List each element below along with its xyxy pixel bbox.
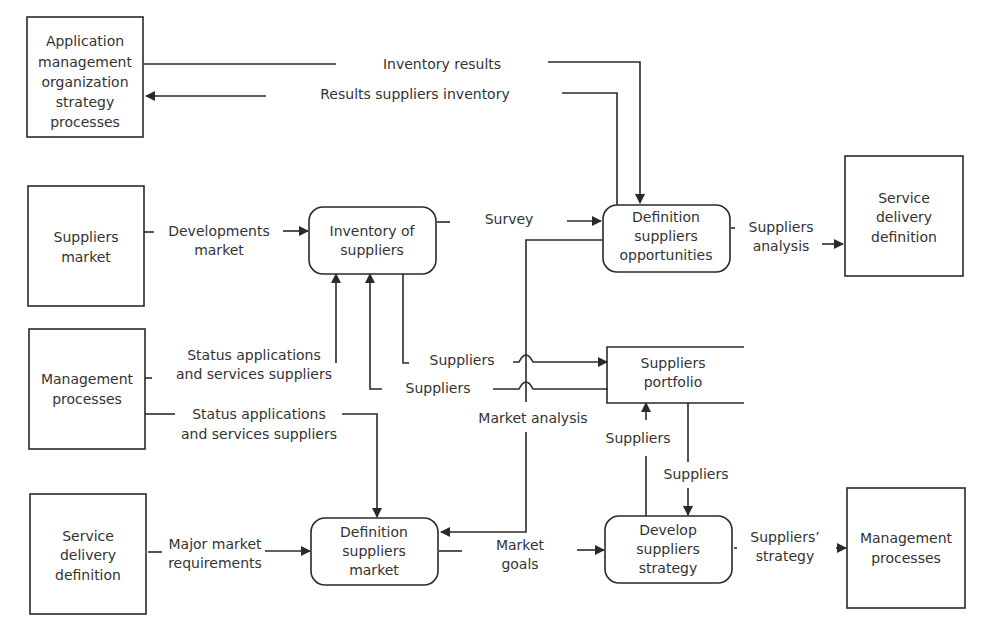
- svg-text:Status applications: Status applications: [192, 406, 326, 422]
- svg-text:requirements: requirements: [168, 555, 262, 571]
- svg-text:strategy: strategy: [639, 560, 697, 576]
- flow-line-results-inventory-right: [562, 93, 617, 205]
- svg-text:and services suppliers: and services suppliers: [181, 426, 337, 442]
- svg-text:opportunities: opportunities: [619, 247, 712, 263]
- svg-text:delivery: delivery: [876, 209, 932, 225]
- flow-label-suppliers-to-portfolio: Suppliers: [430, 352, 495, 368]
- process-definition-suppliers-market[interactable]: Definition suppliers market: [311, 518, 438, 585]
- flow-label-suppliers-up: Suppliers: [606, 430, 671, 446]
- svg-text:processes: processes: [52, 391, 122, 407]
- external-entity-app-mgmt[interactable]: Application management organization stra…: [27, 17, 143, 137]
- flow-line-suppliers2-left: [493, 382, 608, 389]
- flow-line-suppliers1-right: [513, 355, 607, 362]
- flow-label-market-analysis: Market analysis: [478, 410, 587, 426]
- svg-text:Application: Application: [46, 33, 124, 49]
- data-flow-diagram: Application management organization stra…: [0, 0, 989, 631]
- flow-line-suppliers1-down: [403, 274, 409, 363]
- svg-text:goals: goals: [501, 556, 538, 572]
- external-entity-service-delivery-left[interactable]: Service delivery definition: [30, 494, 146, 614]
- svg-text:Market: Market: [496, 537, 545, 553]
- flow-label-suppliers-strategy: Suppliers’ strategy: [750, 529, 819, 564]
- flow-line-market-analysis-top: [526, 240, 603, 320]
- svg-text:definition: definition: [55, 567, 121, 583]
- process-definition-suppliers-opportunities[interactable]: Definition suppliers opportunities: [603, 205, 730, 272]
- svg-text:processes: processes: [50, 114, 120, 130]
- flow-label-developments-market: Developments market: [168, 223, 270, 258]
- external-entity-service-delivery-right[interactable]: Service delivery definition: [845, 156, 963, 276]
- svg-text:and services suppliers: and services suppliers: [176, 366, 332, 382]
- flow-line-status2-right: [342, 414, 377, 517]
- svg-text:Service: Service: [878, 190, 930, 206]
- svg-text:suppliers: suppliers: [340, 242, 403, 258]
- svg-text:suppliers: suppliers: [636, 541, 699, 557]
- flow-label-status-applications-2: Status applications and services supplie…: [181, 406, 337, 442]
- svg-text:Management: Management: [860, 530, 953, 546]
- svg-text:strategy: strategy: [756, 548, 814, 564]
- data-store-suppliers-portfolio[interactable]: Suppliers portfolio: [607, 347, 744, 403]
- flow-label-status-applications-1: Status applications and services supplie…: [176, 347, 332, 382]
- flow-line-suppliers2-up: [370, 274, 382, 389]
- flow-lines: [143, 62, 846, 552]
- flow-label-market-goals: Market goals: [496, 537, 545, 572]
- svg-text:Status applications: Status applications: [187, 347, 321, 363]
- svg-text:delivery: delivery: [60, 547, 116, 563]
- svg-text:Suppliers: Suppliers: [641, 355, 706, 371]
- svg-text:Inventory of: Inventory of: [330, 223, 416, 239]
- external-entity-suppliers-market[interactable]: Suppliers market: [28, 186, 144, 306]
- flow-line-market-analysis-bottom: [441, 432, 526, 532]
- external-entity-management-processes-right[interactable]: Management processes: [847, 488, 965, 608]
- svg-text:market: market: [61, 249, 111, 265]
- flow-label-major-market-requirements: Major market requirements: [168, 536, 262, 571]
- flow-label-survey: Survey: [485, 211, 534, 227]
- svg-text:Management: Management: [41, 371, 134, 387]
- flow-label-results-suppliers-inventory: Results suppliers inventory: [320, 86, 509, 102]
- svg-text:Suppliers: Suppliers: [749, 219, 814, 235]
- svg-text:definition: definition: [871, 229, 937, 245]
- process-inventory-of-suppliers[interactable]: Inventory of suppliers: [309, 207, 436, 274]
- svg-text:organization: organization: [41, 74, 128, 90]
- svg-text:Definition: Definition: [632, 209, 700, 225]
- svg-text:Service: Service: [62, 528, 114, 544]
- svg-text:processes: processes: [871, 550, 941, 566]
- svg-text:Suppliers: Suppliers: [54, 229, 119, 245]
- flow-label-suppliers-analysis: Suppliers analysis: [749, 219, 814, 254]
- svg-text:market: market: [194, 242, 244, 258]
- svg-text:Definition: Definition: [340, 524, 408, 540]
- svg-text:suppliers: suppliers: [342, 543, 405, 559]
- svg-text:Develop: Develop: [639, 522, 697, 538]
- svg-text:Developments: Developments: [168, 223, 270, 239]
- svg-text:strategy: strategy: [56, 94, 114, 110]
- svg-text:portfolio: portfolio: [644, 374, 703, 390]
- svg-text:management: management: [38, 54, 132, 70]
- flow-label-suppliers-down: Suppliers: [664, 466, 729, 482]
- external-entity-management-processes-left[interactable]: Management processes: [29, 329, 145, 449]
- flow-line-inventory-results-right: [548, 62, 640, 203]
- flow-label-inventory-results: Inventory results: [383, 56, 501, 72]
- svg-text:analysis: analysis: [753, 238, 810, 254]
- svg-text:Major market: Major market: [168, 536, 262, 552]
- process-develop-suppliers-strategy[interactable]: Develop suppliers strategy: [605, 516, 732, 583]
- flow-label-suppliers-to-inventory: Suppliers: [406, 380, 471, 396]
- svg-text:market: market: [349, 562, 399, 578]
- svg-text:Suppliers’: Suppliers’: [750, 529, 819, 545]
- svg-text:suppliers: suppliers: [634, 228, 697, 244]
